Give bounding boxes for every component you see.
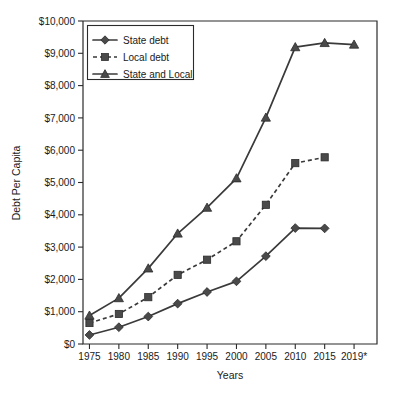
legend-item-state-debt[interactable]: State debt [93,35,169,46]
legend-item-label: State debt [123,35,169,46]
x-axis-tick-label: 1975 [78,351,101,362]
chart-legend: State debtLocal debtState and Local [88,26,194,80]
series-state-debt [85,224,329,340]
data-point-triangle [85,311,94,319]
legend-item-label: Local debt [123,52,169,63]
x-axis-tick-label: 2019* [341,351,367,362]
series-line [89,228,324,335]
data-point-diamond [85,331,94,340]
series-line [89,157,324,323]
y-axis-tick-label: $2,000 [44,274,75,285]
x-axis-title: Years [217,369,243,381]
y-axis-tick-label: $3,000 [44,242,75,253]
y-axis-tick-group: $0$1,000$2,000$3,000$4,000$5,000$6,000$7… [39,16,83,350]
data-point-square [115,310,122,317]
data-point-square [174,271,181,278]
y-axis-tick-label: $4,000 [44,209,75,220]
y-axis-title: Debt Per Capita [10,145,22,220]
data-point-diamond [320,224,329,233]
debt-per-capita-chart: $0$1,000$2,000$3,000$4,000$5,000$6,000$7… [0,0,402,395]
chart-canvas: $0$1,000$2,000$3,000$4,000$5,000$6,000$7… [0,0,402,395]
y-axis-tick-label: $9,000 [44,48,75,59]
x-axis-tick-label: 1990 [167,351,190,362]
data-point-square [86,319,93,326]
x-axis-tick-label: 2010 [284,351,307,362]
x-axis-tick-label: 1985 [137,351,160,362]
data-point-square [292,160,299,167]
y-axis-tick-label: $0 [64,339,76,350]
x-axis-tick-label: 2015 [314,351,337,362]
y-axis-tick-label: $10,000 [39,16,76,27]
y-axis-tick-label: $7,000 [44,113,75,124]
data-point-diamond [144,312,153,321]
data-point-triangle [261,113,270,121]
data-point-diamond [173,299,182,308]
data-point-square [203,256,210,263]
legend-item-label: State and Local [123,69,193,80]
x-axis-tick-label: 2005 [255,351,278,362]
y-axis-tick-label: $1,000 [44,306,75,317]
y-axis-tick-label: $8,000 [44,80,75,91]
data-point-square [145,294,152,301]
data-point-square [233,238,240,245]
data-series-layer [85,38,359,339]
series-line [89,43,354,316]
data-point-square [321,154,328,161]
data-point-triangle [232,174,241,182]
data-point-diamond [203,288,212,297]
data-point-diamond [114,323,123,332]
y-axis-tick-label: $5,000 [44,177,75,188]
x-axis-tick-group: 1975198019851990199520002005201020152019… [78,344,367,362]
x-axis-tick-label: 2000 [225,351,248,362]
series-state-and-local [85,38,359,319]
x-axis-tick-label: 1980 [108,351,131,362]
y-axis-tick-label: $6,000 [44,145,75,156]
data-point-square [262,201,269,208]
x-axis-tick-label: 1995 [196,351,219,362]
data-point-square [102,54,109,61]
